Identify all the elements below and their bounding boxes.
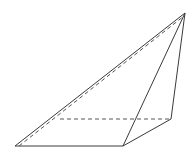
pyramid-diagram — [0, 0, 196, 157]
edge-base-right — [123, 119, 171, 146]
edge-front-left-to-apex — [15, 13, 185, 146]
pyramid-figure — [0, 0, 196, 157]
edge-front-right-to-apex — [123, 13, 185, 146]
hidden-edge-diagonal-to-apex — [19, 16, 184, 146]
